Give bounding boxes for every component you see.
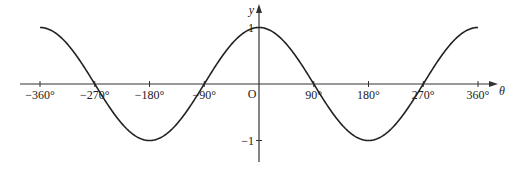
x-tick-label: 270°	[412, 88, 435, 102]
cosine-graph: −360°−270°−180°−90°90°180°270°360°1−1yθO	[0, 0, 515, 171]
x-axis-label: θ	[499, 84, 505, 98]
x-tick-label: 90°	[305, 88, 322, 102]
y-axis-arrow-icon	[256, 4, 262, 13]
x-tick-label: −270°	[80, 88, 110, 102]
origin-label: O	[248, 87, 257, 101]
x-tick-label: 360°	[467, 88, 490, 102]
x-tick-label: −90°	[192, 88, 216, 102]
x-axis-arrow-icon	[489, 81, 498, 87]
x-tick-label: −360°	[25, 88, 55, 102]
y-tick-label: −1	[241, 134, 254, 148]
labels: −360°−270°−180°−90°90°180°270°360°1−1yθO	[25, 3, 505, 148]
y-tick-label: 1	[248, 21, 254, 35]
x-tick-label: 180°	[357, 88, 380, 102]
x-tick-label: −180°	[135, 88, 165, 102]
y-axis-label: y	[248, 3, 255, 17]
